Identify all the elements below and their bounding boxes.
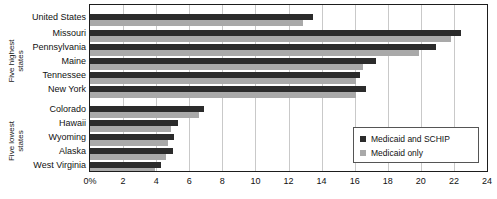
x-tick-label-8: 8 — [207, 176, 237, 186]
bar-alaska-medicaid-only — [90, 154, 166, 160]
category-label-tennessee: Tennessee — [2, 70, 86, 80]
category-label-missouri: Missouri — [2, 28, 86, 38]
bar-missouri-medicaid-only — [90, 36, 451, 42]
category-label-wyoming: Wyoming — [2, 132, 86, 142]
x-tick-label-6: 6 — [174, 176, 204, 186]
x-tick-label-14: 14 — [307, 176, 337, 186]
medicaid-schip-bar-chart: Five highest states Five lowest states U… — [0, 0, 497, 199]
legend-swatch-medicaid-only — [360, 150, 366, 156]
legend-label-medicaid-only: Medicaid only — [371, 149, 423, 158]
x-tick-label-12: 12 — [274, 176, 304, 186]
legend-item-medicaid-only: Medicaid only — [360, 146, 473, 160]
x-tick-label-24: 24 — [472, 176, 497, 186]
bar-new-york-medicaid-only — [90, 92, 356, 98]
category-label-alaska: Alaska — [2, 146, 86, 156]
x-tick-label-16: 16 — [340, 176, 370, 186]
bar-tennessee-medicaid-only — [90, 78, 356, 84]
bar-pennsylvania-medicaid-only — [90, 50, 419, 56]
category-label-pennsylvania: Pennsylvania — [2, 42, 86, 52]
legend: Medicaid and SCHIP Medicaid only — [353, 127, 479, 163]
category-label-new-york: New York — [2, 84, 86, 94]
bar-united-states-medicaid-only — [90, 20, 303, 26]
category-label-maine: Maine — [2, 56, 86, 66]
category-label-united-states: United States — [2, 12, 86, 22]
x-tick-label-22: 22 — [439, 176, 469, 186]
x-tick-label-4: 4 — [141, 176, 171, 186]
x-tick-label-20: 20 — [406, 176, 436, 186]
category-label-west-virginia: West Virginia — [2, 160, 86, 170]
bar-west-virginia-medicaid-only — [90, 168, 155, 172]
bar-hawaii-medicaid-only — [90, 126, 171, 132]
x-tick-label-0: 0% — [75, 176, 105, 186]
x-tick-label-18: 18 — [373, 176, 403, 186]
x-tick-label-2: 2 — [108, 176, 138, 186]
bar-colorado-medicaid-only — [90, 112, 199, 118]
legend-swatch-medicaid-and-schip — [360, 136, 366, 142]
category-label-colorado: Colorado — [2, 104, 86, 114]
category-label-hawaii: Hawaii — [2, 118, 86, 128]
legend-item-medicaid-and-schip: Medicaid and SCHIP — [360, 132, 473, 146]
bar-wyoming-medicaid-only — [90, 140, 168, 146]
gridline-24 — [487, 5, 488, 171]
legend-label-medicaid-and-schip: Medicaid and SCHIP — [371, 135, 450, 144]
bar-maine-medicaid-only — [90, 64, 363, 70]
x-tick-label-10: 10 — [240, 176, 270, 186]
